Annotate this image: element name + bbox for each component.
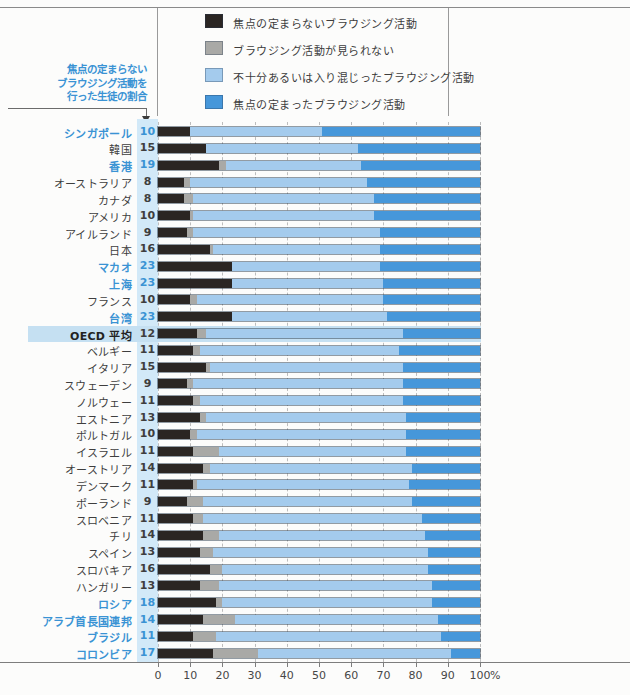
stacked-bar (158, 464, 480, 473)
x-axis-tick (383, 662, 384, 667)
segment-none (213, 649, 258, 658)
country-label: ポルトガル (0, 427, 132, 443)
segment-unfocused (158, 379, 187, 388)
country-label: ノルウェー (0, 394, 132, 410)
segment-unfocused (158, 598, 216, 607)
stacked-bar (158, 312, 480, 321)
segment-unfocused (158, 430, 190, 439)
country-label: ブラジル (0, 629, 132, 645)
segment-unfocused (158, 396, 193, 405)
segment-mixed (258, 649, 451, 658)
segment-focused (380, 262, 480, 271)
country-label: オーストリア (0, 461, 132, 477)
x-axis-tick (222, 662, 223, 667)
legend-label: ブラウジング活動が見られない (233, 42, 394, 58)
country-value: 23 (137, 259, 158, 272)
country-label: スロバキア (0, 562, 132, 578)
segment-focused (358, 144, 480, 153)
country-value: 10 (137, 427, 158, 440)
segment-unfocused (158, 464, 203, 473)
stacked-bar (158, 480, 480, 489)
segment-mixed (232, 262, 380, 271)
segment-unfocused (158, 447, 193, 456)
segment-focused (451, 649, 480, 658)
segment-unfocused (158, 649, 213, 658)
segment-focused (441, 632, 480, 641)
legend-swatch-focused-icon (205, 95, 223, 109)
stacked-bar (158, 144, 480, 153)
segment-unfocused (158, 363, 206, 372)
x-axis-tick-label: 60 (336, 669, 366, 682)
x-axis-line (0, 662, 630, 663)
segment-mixed (200, 396, 403, 405)
segment-focused (380, 228, 480, 237)
segment-unfocused (158, 531, 203, 540)
segment-unfocused (158, 497, 187, 506)
country-label: アメリカ (0, 209, 132, 225)
country-value: 10 (137, 125, 158, 138)
x-axis-tick (287, 662, 288, 667)
x-axis-tick (416, 662, 417, 667)
country-value: 9 (137, 226, 158, 239)
x-axis-tick (448, 662, 449, 667)
segment-mixed (232, 312, 387, 321)
country-label: 香港 (0, 158, 132, 174)
country-value: 11 (137, 629, 158, 642)
segment-mixed (210, 363, 403, 372)
segment-mixed (200, 346, 400, 355)
segment-focused (374, 211, 480, 220)
segment-mixed (219, 447, 406, 456)
x-axis-tick-label: 80 (401, 669, 431, 682)
country-label: 韓国 (0, 141, 132, 157)
country-label: アイルランド (0, 226, 132, 242)
country-value: 9 (137, 377, 158, 390)
segment-unfocused (158, 245, 210, 254)
stacked-bar (158, 161, 480, 170)
legend-swatch-none-icon (205, 41, 223, 55)
country-value: 16 (137, 242, 158, 255)
segment-focused (432, 581, 480, 590)
x-axis-tick-label: 90 (433, 669, 463, 682)
annotation-line: 焦点の定まらない (0, 63, 147, 77)
country-label: コロンビア (0, 646, 132, 662)
country-label: スウェーデン (0, 377, 132, 393)
segment-mixed (203, 514, 422, 523)
stacked-bar (158, 379, 480, 388)
country-value: 19 (137, 158, 158, 171)
legend-label: 焦点の定まらないブラウジング活動 (233, 15, 417, 31)
country-value: 16 (137, 562, 158, 575)
segment-unfocused (158, 194, 184, 203)
x-axis-tick (319, 662, 320, 667)
country-label: マカオ (0, 259, 132, 275)
segment-none (187, 497, 203, 506)
x-axis-tick (190, 662, 191, 667)
segment-focused (409, 480, 480, 489)
segment-none (197, 329, 207, 338)
segment-focused (387, 312, 480, 321)
stacked-bar (158, 531, 480, 540)
stacked-bar (158, 262, 480, 271)
legend-label: 焦点の定まったブラウジング活動 (233, 96, 406, 112)
segment-mixed (190, 127, 322, 136)
stacked-bar (158, 649, 480, 658)
table-border-left (157, 8, 158, 116)
segment-focused (428, 565, 480, 574)
segment-focused (383, 295, 480, 304)
country-label: イタリア (0, 360, 132, 376)
stacked-bar (158, 329, 480, 338)
country-value: 11 (137, 343, 158, 356)
segment-focused (361, 161, 480, 170)
segment-mixed (216, 632, 441, 641)
stacked-bar (158, 363, 480, 372)
country-label: イスラエル (0, 444, 132, 460)
segment-focused (428, 548, 480, 557)
country-value: 13 (137, 411, 158, 424)
country-value: 15 (137, 141, 158, 154)
segment-none (193, 447, 219, 456)
x-axis-tick (158, 662, 159, 667)
country-label: スペイン (0, 545, 132, 561)
segment-mixed (197, 480, 410, 489)
country-label: エストニア (0, 411, 132, 427)
country-label: スロベニア (0, 512, 132, 528)
stacked-bar (158, 598, 480, 607)
